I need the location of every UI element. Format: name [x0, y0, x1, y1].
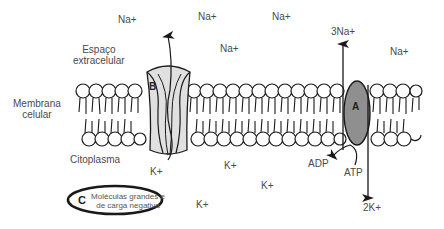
molecule-c-line2: de carga negativa — [90, 201, 166, 210]
atp-adp-arrow — [333, 145, 357, 165]
extracellular-line2: extracelular — [73, 55, 125, 66]
channel-b-letter: B — [149, 81, 156, 92]
lipid-bilayer-lower — [82, 132, 421, 146]
na-ion-4: Na+ — [220, 43, 239, 54]
membrane-diagram-graphic — [0, 0, 444, 229]
k-ion-3: K+ — [196, 199, 209, 210]
k-ion-2: K+ — [261, 180, 274, 191]
molecule-c-letter: C — [78, 194, 86, 206]
na-ion-2: Na+ — [198, 11, 217, 22]
membrane-line1: Membrana — [13, 98, 61, 109]
k-ion-channel-b: K+ — [150, 166, 163, 177]
na-ion-5: Na+ — [390, 46, 409, 57]
channel-b-protein — [147, 66, 190, 155]
k-ion-1: K+ — [224, 160, 237, 171]
lipid-bilayer-upper — [76, 84, 422, 98]
extracellular-space-label: Espaço extracelular — [73, 44, 125, 66]
cell-membrane-label: Membrana celular — [13, 98, 61, 120]
pump-a-atp-label: ATP — [344, 167, 363, 178]
na-ion-1: Na+ — [118, 14, 137, 25]
pump-a-adp-label: ADP — [308, 158, 329, 169]
extracellular-line1: Espaço — [73, 44, 125, 55]
molecule-c-description: Moléculas grandes e de carga negativa — [90, 192, 166, 210]
molecule-c-line1: Moléculas grandes e — [90, 192, 166, 201]
membrane-line2: celular — [13, 109, 61, 120]
cytoplasm-label: Citoplasma — [70, 154, 120, 165]
pump-a-2k-label: 2K+ — [363, 202, 381, 213]
pump-a-3na-label: 3Na+ — [331, 26, 355, 37]
sodium-potassium-pump-diagram: Espaço extracelular Membrana celular Cit… — [0, 0, 444, 229]
pump-a-letter: A — [352, 101, 359, 112]
pump-a-protein — [344, 81, 370, 145]
na-ion-3: Na+ — [272, 11, 291, 22]
